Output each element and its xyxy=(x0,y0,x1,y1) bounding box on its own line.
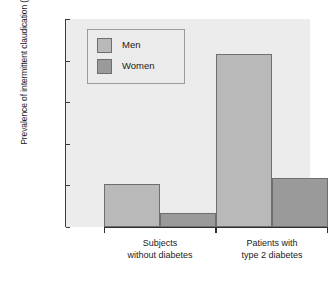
bar-men-group-1 xyxy=(104,184,160,227)
legend: Men Women xyxy=(87,29,185,84)
y-tick-25 xyxy=(66,19,70,20)
y-axis-title: Prevalence of intermittent claudication … xyxy=(19,0,30,157)
y-tick-15 xyxy=(66,102,70,103)
bar-women-group-2 xyxy=(272,178,328,227)
legend-swatch-men xyxy=(97,38,112,53)
x-axis-label-2-line-2: type 2 diabetes xyxy=(202,250,332,262)
x-axis-label-2: Patients withtype 2 diabetes xyxy=(202,238,332,261)
y-tick-10 xyxy=(66,144,70,145)
bar-men-group-2 xyxy=(216,54,272,227)
bar-women-group-1 xyxy=(160,213,216,227)
x-axis-label-2-line-1: Patients with xyxy=(202,238,332,250)
legend-label-men: Men xyxy=(122,39,140,50)
x-tick-2-2 xyxy=(327,228,328,233)
x-tick-1-1 xyxy=(104,228,105,233)
legend-swatch-women xyxy=(97,59,112,74)
legend-label-women: Women xyxy=(122,60,155,71)
y-tick-5 xyxy=(66,185,70,186)
chart-figure: Prevalence of intermittent claudication … xyxy=(0,0,332,284)
y-tick-0 xyxy=(66,227,70,228)
x-axis-segment-2 xyxy=(216,227,328,228)
x-tick-2-1 xyxy=(216,228,217,233)
y-tick-20 xyxy=(66,61,70,62)
y-axis-line xyxy=(65,19,66,227)
x-axis-segment-1 xyxy=(104,227,216,228)
